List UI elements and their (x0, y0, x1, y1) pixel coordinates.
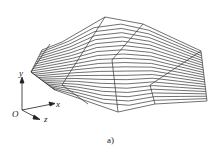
z-arrow-icon (33, 115, 40, 120)
x-axis (22, 104, 52, 110)
z-axis-label: z (43, 114, 48, 124)
origin-label: O (12, 109, 19, 119)
coordinate-axes (20, 77, 55, 120)
surface-mesh (31, 17, 207, 112)
figure-caption: a) (107, 135, 114, 145)
mesh-strip-line (32, 63, 204, 75)
x-arrow-icon (49, 102, 55, 106)
mesh-strip-line (53, 88, 207, 105)
mesh-strip-line (33, 54, 204, 70)
y-axis-label: y (18, 68, 23, 78)
mesh-strip-line (45, 82, 206, 89)
x-axis-label: x (55, 99, 60, 109)
mesh-strip-line (49, 85, 206, 96)
wireframe-figure: y x z O a) (0, 0, 217, 159)
